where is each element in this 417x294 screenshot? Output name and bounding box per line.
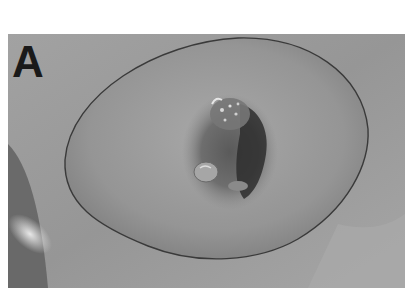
panel-label: A [12,40,44,84]
photo-illustration [8,34,405,288]
clinical-photograph [8,34,405,288]
